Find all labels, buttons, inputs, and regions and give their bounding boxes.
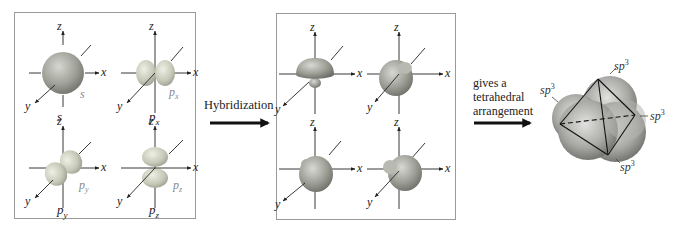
tetrahedral-label-line2: tetrahedral <box>473 90 533 104</box>
z-axis-label: z <box>310 20 315 35</box>
py-orbital-icon <box>19 118 99 213</box>
sp3-label-top: sp3 <box>614 58 629 74</box>
x-axis-label: x <box>193 160 198 175</box>
px-orbital-icon <box>111 23 191 118</box>
tetrahedral-label-line1: gives a <box>473 76 533 90</box>
hybrid-orbitals-panel: z x y z x y z x y <box>276 13 456 220</box>
y-axis-label: y <box>25 99 30 114</box>
sp3-label-right-text: sp <box>650 109 661 123</box>
px-inner-label: px <box>169 85 179 101</box>
x-axis-label: x <box>101 160 106 175</box>
y-axis-label: y <box>275 197 280 212</box>
sp3-label-right: sp3 <box>650 108 665 124</box>
s-orbital: z x y s s <box>19 23 99 118</box>
z-axis-label: z <box>394 115 399 130</box>
s-inner-label: s <box>80 87 85 102</box>
sp3-orbital-front: z x y <box>279 119 359 214</box>
z-axis-label: z <box>149 19 154 34</box>
right-arrow-icon <box>208 116 278 130</box>
px-orbital: z x y px px <box>111 23 191 118</box>
py-inner-label: py <box>79 178 89 194</box>
right-arrow-icon <box>472 116 542 130</box>
pz-caption: pz <box>149 202 159 220</box>
py-caption: py <box>57 202 68 220</box>
x-axis-label: x <box>193 65 198 80</box>
x-axis-label: x <box>445 66 450 81</box>
sp3-orbital-up: z x y <box>279 24 359 119</box>
sp3-label-right-sup: 3 <box>661 108 665 117</box>
y-axis-label: y <box>117 194 122 209</box>
pz-inner-sub: z <box>179 185 182 194</box>
x-axis-label: x <box>445 161 450 176</box>
py-caption-sub: y <box>64 210 68 220</box>
sp3-orbital-front-icon <box>279 119 359 214</box>
sp3-orbital-up-icon <box>279 24 359 119</box>
z-axis-label: z <box>310 115 315 130</box>
sp3-label-left: sp3 <box>540 82 555 98</box>
sp3-orbital-left: z x y <box>363 119 443 214</box>
sp3-label-bottom-sup: 3 <box>631 159 635 168</box>
y-axis-label: y <box>25 194 30 209</box>
y-axis-label: y <box>367 195 372 210</box>
pz-inner-label: pz <box>173 178 182 194</box>
sp3-orbital-back: z x y <box>363 24 443 119</box>
pz-caption-sub: z <box>156 210 160 220</box>
pz-orbital-icon <box>111 118 191 213</box>
sp3-orbital-left-icon <box>363 119 443 214</box>
hybridization-label: Hybridization <box>204 98 273 112</box>
z-axis-label: z <box>57 19 62 34</box>
x-axis-label: x <box>357 66 362 81</box>
sp3-label-bottom: sp3 <box>620 159 635 175</box>
tetrahedral-label: gives a tetrahedral arrangement <box>473 76 533 118</box>
y-axis-label: y <box>367 100 372 115</box>
z-axis-label: z <box>57 114 62 129</box>
z-axis-label: z <box>394 20 399 35</box>
x-axis-label: x <box>101 65 106 80</box>
x-axis-label: x <box>357 161 362 176</box>
py-inner-sub: y <box>85 185 89 194</box>
y-axis-label: y <box>275 102 280 117</box>
atomic-orbitals-panel: z x y s s z x y px px z x y <box>14 12 196 219</box>
sp3-label-top-text: sp <box>614 59 625 73</box>
sp3-label-top-sup: 3 <box>625 58 629 67</box>
pz-orbital: z x y pz pz <box>111 118 191 213</box>
sp3-label-left-text: sp <box>540 83 551 97</box>
s-orbital-icon <box>19 23 99 118</box>
px-inner-sub: x <box>175 92 179 101</box>
y-axis-label: y <box>117 99 122 114</box>
sp3-label-bottom-text: sp <box>620 160 631 174</box>
z-axis-label: z <box>149 114 154 129</box>
sp3-orbital-back-icon <box>363 24 443 119</box>
sp3-label-left-sup: 3 <box>551 82 555 91</box>
py-orbital: z x y py py <box>19 118 99 213</box>
